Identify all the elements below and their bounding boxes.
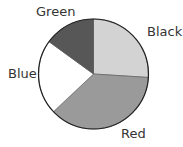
pie-slice-black <box>94 19 149 77</box>
label-green: Green <box>36 4 75 19</box>
label-black: Black <box>147 24 182 39</box>
label-blue: Blue <box>8 66 37 81</box>
label-red: Red <box>121 126 146 141</box>
